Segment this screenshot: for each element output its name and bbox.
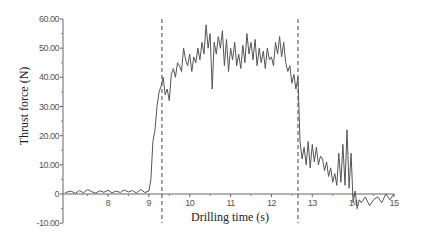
vertical-markers (162, 19, 298, 223)
y-axis: -10.00010.0020.0030.0040.0050.0060.00 (36, 14, 63, 228)
x-tick-label: 15 (389, 198, 399, 208)
x-tick-label: 10 (185, 198, 195, 208)
y-tick-label: 40.00 (39, 72, 60, 82)
x-tick-label: 11 (226, 198, 235, 208)
y-tick-label: -10.00 (36, 218, 59, 228)
x-axis: 89101112131415 (63, 194, 399, 208)
series-line-thrust-force (65, 25, 394, 209)
y-tick-label: 60.00 (39, 14, 60, 24)
x-tick-label: 8 (106, 198, 111, 208)
x-axis-title: Drilling time (s) (191, 210, 269, 224)
x-tick-label: 9 (147, 198, 152, 208)
y-tick-label: 50.00 (39, 43, 60, 53)
series-layer (65, 25, 394, 209)
thrust-force-chart: -10.00010.0020.0030.0040.0050.0060.00 89… (0, 0, 421, 242)
y-axis-title: Thrust force (N) (17, 67, 31, 146)
y-tick-label: 20.00 (39, 131, 60, 141)
y-tick-label: 10.00 (39, 160, 60, 170)
y-tick-label: 0 (54, 189, 59, 199)
y-tick-label: 30.00 (39, 102, 60, 112)
x-tick-label: 13 (308, 198, 318, 208)
x-tick-label: 12 (267, 198, 277, 208)
